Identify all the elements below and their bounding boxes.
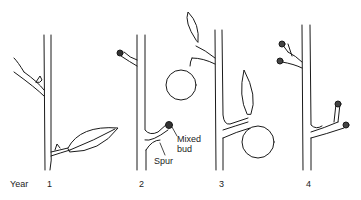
stage-1-label: 1 xyxy=(47,179,52,189)
spur-annotation: Spur xyxy=(154,156,173,166)
stage-3-label: 3 xyxy=(219,179,224,189)
stage-4-drawing xyxy=(277,25,349,170)
leaf xyxy=(242,70,254,114)
spur-development-diagram xyxy=(0,0,361,200)
fruit xyxy=(242,126,274,158)
leaf xyxy=(187,12,198,42)
stage-4-label: 4 xyxy=(306,179,311,189)
fruit xyxy=(166,70,196,100)
mixed-bud-annotation-line1: Mixed xyxy=(177,134,201,144)
stage-2-label: 2 xyxy=(139,179,144,189)
terminal-bud xyxy=(117,50,123,56)
mixed-bud xyxy=(166,122,173,129)
stage-1-drawing xyxy=(14,35,118,170)
year-row-label: Year xyxy=(10,179,28,189)
stage-2-drawing xyxy=(117,35,177,170)
mixed-bud-annotation-line2: bud xyxy=(177,144,192,154)
